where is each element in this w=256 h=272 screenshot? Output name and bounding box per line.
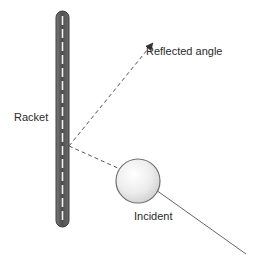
incident-label: Incident: [134, 211, 173, 222]
reflected-angle-label: Reflected angle: [146, 46, 222, 57]
diagram-canvas: [0, 0, 256, 272]
racket-label: Racket: [14, 112, 48, 123]
reflected-path-dashed: [69, 44, 152, 146]
incident-path-dashed: [69, 146, 120, 169]
ball: [116, 159, 160, 203]
racket: [56, 11, 69, 227]
racket-reflection-diagram: Reflected angle Racket Incident: [0, 0, 256, 272]
incident-path-solid: [156, 190, 246, 254]
